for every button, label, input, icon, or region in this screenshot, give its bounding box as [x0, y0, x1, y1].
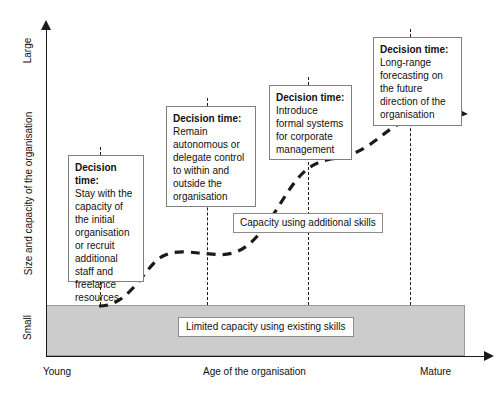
- limited-capacity-band-label: Limited capacity using existing skills: [178, 317, 354, 337]
- y-axis-arrow-icon: [41, 20, 51, 30]
- x-axis-label-young: Young: [43, 366, 71, 377]
- decision-box-4-title: Decision time:: [380, 43, 455, 56]
- decision-box-1-title: Decision time:: [75, 161, 137, 187]
- decision-box-2: Decision time: Remain autonomous or dele…: [166, 106, 256, 207]
- decision-box-3: Decision time: Introduce formal systems …: [269, 85, 352, 160]
- decision-box-1: Decision time: Stay with the capacity of…: [68, 155, 144, 282]
- capacity-additional-skills-label: Capacity using additional skills: [233, 213, 383, 233]
- decision-box-4-body: Long-range forecasting on the future dir…: [380, 56, 455, 121]
- diagram-canvas: Limited capacity using existing skills S…: [0, 0, 501, 397]
- x-axis-label-mature: Mature: [420, 366, 451, 377]
- x-axis-line: [46, 356, 490, 357]
- decision-box-2-title: Decision time:: [173, 112, 249, 125]
- decision-box-2-body: Remain autonomous or delegate control to…: [173, 125, 249, 203]
- y-axis-title: Size and capacity of the organisation: [23, 109, 34, 279]
- decision-box-1-body: Stay with the capacity of the initial or…: [75, 187, 137, 304]
- decision-box-3-title: Decision time:: [276, 91, 345, 104]
- x-axis-title: Age of the organisation: [203, 366, 306, 377]
- y-axis-label-large: Large: [22, 21, 33, 81]
- x-axis-arrow-icon: [484, 351, 494, 361]
- y-axis-line: [46, 28, 47, 357]
- decision-box-4: Decision time: Long-range forecasting on…: [373, 37, 462, 126]
- y-axis-label-small: Small: [22, 298, 33, 358]
- decision-box-3-body: Introduce formal systems for corporate m…: [276, 104, 345, 156]
